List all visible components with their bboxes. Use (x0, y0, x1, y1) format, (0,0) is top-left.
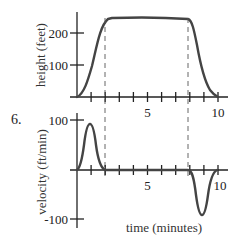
height-curve (77, 17, 218, 97)
velocity-y-label: velocity (ft/min) (34, 129, 49, 215)
velocity-x-label: time (minutes) (126, 220, 202, 235)
velocity-x-tick-label-5: 5 (144, 178, 151, 193)
height-y-label: height (feet) (33, 23, 48, 87)
height-panel: 200 100 5 10 height (feet) (33, 12, 228, 120)
height-y-tick-label-200: 200 (49, 26, 69, 41)
height-y-tick-label-100: 100 (49, 58, 69, 73)
height-x-tick-label-10: 10 (212, 105, 225, 120)
chart-canvas: 200 100 5 10 height (feet) (0, 0, 240, 244)
height-x-tick-label-5: 5 (144, 105, 151, 120)
velocity-x-tick-label-10: 10 (214, 178, 227, 193)
velocity-panel: 100 -100 5 10 velocity (ft/min) time (mi… (34, 113, 228, 235)
velocity-y-tick-label-100: 100 (49, 113, 69, 128)
